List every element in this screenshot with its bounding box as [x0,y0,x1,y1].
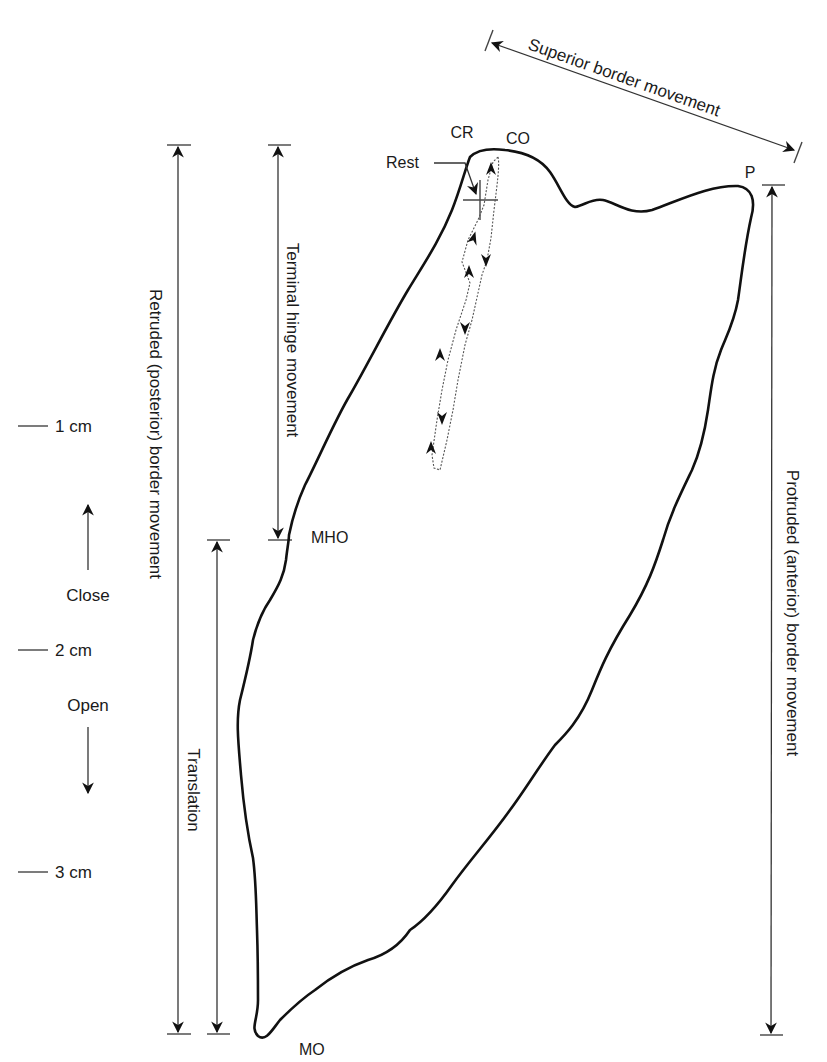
retruded-dimension: Retruded (posterior) border movement [146,145,191,1034]
scale-label-1cm: 1 cm [55,417,92,436]
co-label: CO [506,130,530,147]
path-arrow-down-icon [437,412,447,425]
translation-dimension: Translation [184,540,230,1034]
translation-label: Translation [184,748,203,831]
scale-label-2cm: 2 cm [55,641,92,660]
rest-pointer-arrow-icon [434,163,476,194]
path-arrow-up-icon [435,348,445,361]
p-label: P [745,164,756,181]
path-arrow-up-icon [426,441,436,454]
path-arrow-down-icon [460,322,470,335]
superior-dimension: Superior border movement [485,30,802,163]
scale-bar: 1 cm 2 cm 3 cm Close Open [18,417,110,882]
border-movement-diagram: 1 cm 2 cm 3 cm Close Open Retruded (post… [0,0,827,1062]
chewing-path [426,157,499,470]
mho-label: MHO [311,529,348,546]
terminal-hinge-dimension: Terminal hinge movement [268,145,302,540]
superior-label: Superior border movement [526,35,723,121]
path-arrow-down-icon [481,254,491,267]
scale-label-3cm: 3 cm [55,863,92,882]
path-arrow-up-icon [486,162,496,175]
open-label: Open [67,696,109,715]
rest-marker: Rest [386,154,498,220]
cr-label: CR [450,124,473,141]
border-envelope-outline [238,149,753,1037]
protruded-dimension: Protruded (anterior) border movement [760,185,802,1035]
protruded-arrow-icon [771,187,772,1033]
protruded-label: Protruded (anterior) border movement [783,470,802,757]
close-label: Close [66,586,109,605]
mo-label: MO [299,1041,325,1058]
rest-label: Rest [386,154,419,171]
superior-arrow-icon [492,43,794,150]
retruded-label: Retruded (posterior) border movement [146,289,165,579]
terminal-hinge-label: Terminal hinge movement [283,243,302,438]
